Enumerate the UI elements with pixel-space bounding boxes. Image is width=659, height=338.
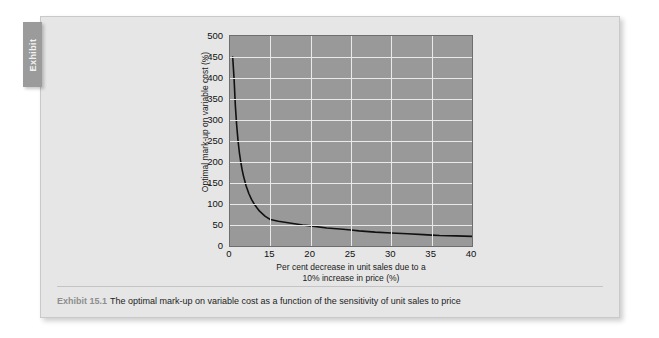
x-axis-tick-label: 0 <box>226 248 231 259</box>
y-axis-tick-label: 500 <box>207 30 223 41</box>
x-axis-title-line: 10% increase in price (%) <box>206 273 496 284</box>
exhibit-caption: Exhibit 15.1The optimal mark-up on varia… <box>57 296 609 306</box>
gridline-vertical <box>311 36 312 246</box>
y-axis-tick-label: 400 <box>207 72 223 83</box>
exhibit-side-tab: Exhibit <box>23 22 42 87</box>
page-background: Exhibit Optimal mark-up on variable cost… <box>0 0 659 338</box>
x-axis-tick-labels: 0152025303540 <box>229 248 473 262</box>
gridline-vertical <box>351 36 352 246</box>
gridline-vertical <box>432 36 433 246</box>
plot-area <box>229 35 473 247</box>
x-axis-tick-label: 40 <box>466 248 477 259</box>
x-axis-tick-label: 15 <box>264 248 275 259</box>
gridline-vertical <box>391 36 392 246</box>
caption-text: The optimal mark-up on variable cost as … <box>110 296 461 306</box>
gridline-vertical <box>270 36 271 246</box>
y-axis-tick-label: 250 <box>207 135 223 146</box>
x-axis-title-line: Per cent decrease in unit sales due to a <box>206 262 496 273</box>
caption-label: Exhibit 15.1 <box>57 296 107 306</box>
y-axis-tick-label: 300 <box>207 114 223 125</box>
caption-divider <box>57 286 603 287</box>
x-axis-title: Per cent decrease in unit sales due to a… <box>206 262 496 284</box>
y-axis-tick-label: 0 <box>218 240 223 251</box>
x-axis-tick-label: 25 <box>345 248 356 259</box>
exhibit-panel: Optimal mark-up on variable cost (%) 050… <box>40 16 620 318</box>
y-axis-tick-label: 150 <box>207 177 223 188</box>
y-axis-tick-label: 200 <box>207 156 223 167</box>
x-axis-tick-label: 35 <box>425 248 436 259</box>
chart: Optimal mark-up on variable cost (%) 050… <box>196 21 506 286</box>
x-axis-tick-label: 20 <box>304 248 315 259</box>
y-axis-tick-label: 350 <box>207 93 223 104</box>
y-axis-tick-label: 50 <box>212 219 223 230</box>
y-axis-tick-label: 450 <box>207 51 223 62</box>
y-axis-tick-label: 100 <box>207 198 223 209</box>
y-axis-tick-labels: 050100150200250300350400450500 <box>196 35 226 245</box>
exhibit-tab-label: Exhibit <box>28 38 38 71</box>
x-axis-tick-label: 30 <box>385 248 396 259</box>
